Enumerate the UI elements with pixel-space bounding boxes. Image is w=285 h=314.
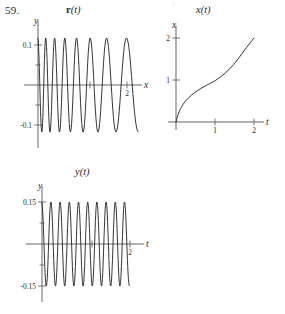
y-of-t-title: y(t) (75, 166, 90, 177)
r-of-t-title-arg: (t) (71, 4, 81, 15)
y-plot-t-axis-label: t (146, 239, 149, 249)
y-plot-ytick-label-neg0.15: -0.15 (21, 282, 37, 291)
r-plot-x-axis-label: x (143, 80, 149, 90)
y-plot-ttick-label-2: 2 (128, 248, 132, 257)
problem-number: 59. (5, 4, 19, 16)
x-plot-xtick-label-1: 1 (213, 126, 217, 135)
r-of-t-title: r(t) (66, 4, 81, 15)
x-of-t-panel: x t 2 1 1 2 (160, 18, 275, 143)
scan-artifact: 1 (172, 1, 175, 6)
r-plot-y-axis-label: y (33, 16, 39, 26)
x-plot-curve (176, 38, 254, 122)
r-of-t-panel: y x 0.1 -0.1 2 (20, 18, 150, 153)
x-plot-ytick-label-2: 2 (166, 34, 170, 43)
x-plot-xtick-label-2: 2 (252, 126, 256, 135)
r-plot-ytick-label-0.1: 0.1 (23, 41, 33, 50)
y-plot-ytick-label-0.15: 0.15 (23, 198, 36, 207)
x-plot-t-axis-label: t (266, 117, 269, 127)
y-of-t-panel: y t 0.15 -0.15 2 (20, 180, 155, 310)
r-plot-ytick-label-neg0.1: -0.1 (20, 121, 32, 130)
x-of-t-title: x(t) (196, 4, 211, 15)
x-plot-y-axis-label: x (171, 20, 177, 30)
y-plot-y-axis-label: y (37, 181, 43, 191)
x-plot-ytick-label-1: 1 (166, 76, 170, 85)
r-plot-xtick-label-2: 2 (125, 89, 129, 98)
